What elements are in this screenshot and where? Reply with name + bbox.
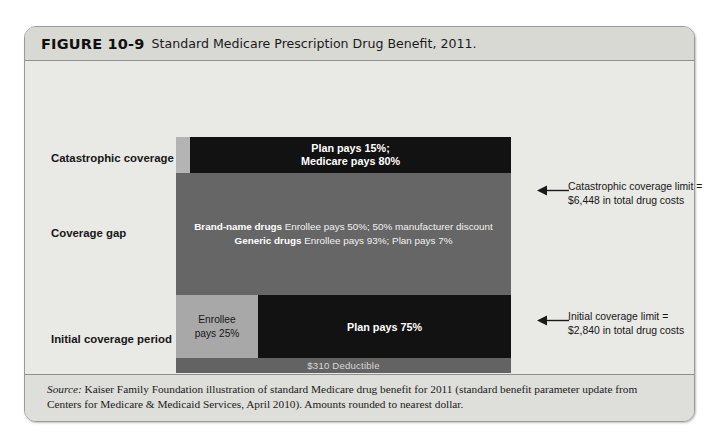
row-label-catastrophic-coverage: Catastrophic coverage bbox=[51, 152, 191, 164]
coverage-gap-brand-rest: Enrollee pays 50%; 50% manufacturer disc… bbox=[282, 221, 493, 232]
segment-enrollee-pays-5 bbox=[176, 137, 190, 173]
source-text: Source: Kaiser Family Foundation illustr… bbox=[47, 382, 672, 411]
catastrophic-limit-line1: Catastrophic coverage limit = bbox=[568, 180, 719, 194]
tier-coverage-gap: Brand-name drugs Enrollee pays 50%; 50% … bbox=[176, 173, 511, 295]
segment-plan-pays-15-medicare-80: Plan pays 15%; Medicare pays 80% bbox=[190, 137, 511, 173]
row-label-initial-coverage-period: Initial coverage period bbox=[51, 333, 191, 345]
callout-initial-coverage-limit: Initial coverage limit = $2,840 in total… bbox=[568, 310, 719, 337]
arrow-left-icon-catastrophic bbox=[537, 184, 569, 197]
tier-deductible: $310 Deductible bbox=[176, 358, 511, 373]
callout-catastrophic-coverage-limit: Catastrophic coverage limit = $6,448 in … bbox=[568, 180, 719, 207]
benefit-tier-chart: Plan pays 15%; Medicare pays 80% Brand-n… bbox=[176, 137, 511, 373]
initial-limit-line2: $2,840 in total drug costs bbox=[568, 324, 719, 338]
figure-source-footer: Source: Kaiser Family Foundation illustr… bbox=[25, 374, 694, 421]
deductible-label: $310 Deductible bbox=[307, 360, 379, 371]
figure-header: FIGURE 10-9 Standard Medicare Prescripti… bbox=[25, 27, 694, 61]
coverage-gap-generic-line: Generic drugs Enrollee pays 93%; Plan pa… bbox=[235, 234, 453, 248]
segment-plan-pays-75-label: Plan pays 75% bbox=[258, 295, 511, 358]
segment-enrollee-pays-25-label: Enrollee pays 25% bbox=[176, 295, 258, 358]
row-label-coverage-gap: Coverage gap bbox=[51, 227, 191, 239]
tier-catastrophic-coverage: Plan pays 15%; Medicare pays 80% bbox=[176, 137, 511, 173]
coverage-gap-generic-rest: Enrollee pays 93%; Plan pays 7% bbox=[301, 235, 452, 246]
tier-initial-coverage-period: Enrollee pays 25% Plan pays 75% bbox=[176, 295, 511, 358]
catastrophic-limit-line2: $6,448 in total drug costs bbox=[568, 194, 719, 208]
enrollee-pays-25-line2: pays 25% bbox=[195, 327, 240, 341]
plan-pays-15-line2: Medicare pays 80% bbox=[301, 155, 400, 168]
coverage-gap-generic-bold: Generic drugs bbox=[235, 235, 302, 246]
enrollee-pays-25-line1: Enrollee bbox=[198, 313, 235, 327]
figure-caption: Standard Medicare Prescription Drug Bene… bbox=[152, 36, 477, 51]
plan-pays-15-line1: Plan pays 15%; bbox=[311, 142, 390, 155]
arrow-left-icon-initial bbox=[537, 314, 569, 327]
figure-number: FIGURE 10-9 bbox=[41, 36, 145, 52]
source-body: Kaiser Family Foundation illustration of… bbox=[47, 383, 637, 410]
source-label: Source: bbox=[47, 383, 82, 395]
tier-coverage-gap-label: Brand-name drugs Enrollee pays 50%; 50% … bbox=[176, 173, 511, 295]
segment-enrollee-pays-25: Enrollee pays 25% bbox=[176, 295, 258, 358]
coverage-gap-brand-line: Brand-name drugs Enrollee pays 50%; 50% … bbox=[194, 220, 493, 234]
initial-limit-line1: Initial coverage limit = bbox=[568, 310, 719, 324]
segment-plan-pays-15-label: Plan pays 15%; Medicare pays 80% bbox=[190, 137, 511, 173]
figure-container: FIGURE 10-9 Standard Medicare Prescripti… bbox=[24, 26, 695, 422]
segment-plan-pays-75: Plan pays 75% bbox=[258, 295, 511, 358]
coverage-gap-brand-bold: Brand-name drugs bbox=[194, 221, 282, 232]
figure-body: Catastrophic coverage Coverage gap Initi… bbox=[25, 61, 694, 376]
